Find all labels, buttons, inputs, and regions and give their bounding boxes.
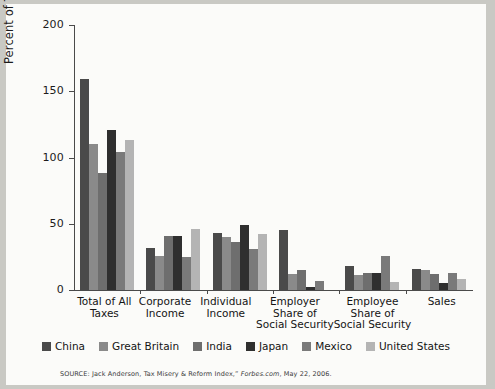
screenshot-page: Percent of Tax Burden 200150100500 Total…	[0, 0, 495, 389]
y-axis-label-container: Percent of Tax Burden	[2, 0, 20, 64]
bar	[173, 236, 182, 290]
x-axis-category-line: Sales	[411, 296, 472, 308]
bar-group	[339, 25, 405, 290]
bar	[155, 256, 164, 290]
y-tick-label: 200	[20, 18, 64, 31]
x-axis-category-label: EmployeeShare ofSocial Security	[334, 296, 412, 338]
bar	[390, 282, 399, 290]
bar	[288, 274, 297, 290]
bar	[116, 152, 125, 290]
legend-label: India	[206, 340, 232, 352]
bar	[279, 230, 288, 290]
x-axis-category-line: Total of All	[74, 296, 135, 308]
x-axis-category-line: Employee	[334, 296, 412, 308]
bar-group	[207, 25, 273, 290]
bar	[412, 269, 421, 290]
legend-swatch	[246, 342, 255, 351]
bar	[213, 233, 222, 290]
x-tick-mark	[339, 290, 340, 294]
x-axis-category-line: Employer	[256, 296, 334, 308]
x-axis-category-line: Individual	[195, 296, 256, 308]
bar	[249, 249, 258, 290]
source-suffix: , May 22, 2006.	[279, 370, 331, 378]
x-axis-category-line: Social Security	[256, 319, 334, 331]
legend-label: Japan	[259, 340, 288, 352]
bar	[125, 140, 134, 290]
x-axis-category-line: Taxes	[74, 308, 135, 320]
x-axis-category-line: Social Security	[334, 319, 412, 331]
x-axis-category-label: Total of AllTaxes	[74, 296, 135, 338]
x-axis-category-line: Income	[135, 308, 196, 320]
x-axis-category-line: Corporate	[135, 296, 196, 308]
x-axis-category-label: Sales	[411, 296, 472, 338]
bar	[80, 79, 89, 290]
bar-group	[140, 25, 206, 290]
legend-item: India	[193, 340, 232, 352]
y-tick-label: 50	[20, 217, 64, 230]
chart-card: Percent of Tax Burden 200150100500 Total…	[6, 4, 486, 385]
y-tick-label: 100	[20, 151, 64, 164]
bar	[222, 237, 231, 290]
y-tick-label: 0	[20, 283, 64, 296]
x-tick-mark	[207, 290, 208, 294]
bar	[182, 257, 191, 290]
legend-item: Japan	[246, 340, 288, 352]
legend-swatch	[193, 342, 202, 351]
bar	[231, 242, 240, 290]
bar-group	[406, 25, 472, 290]
bar-group	[273, 25, 339, 290]
x-axis-category-line: Income	[195, 308, 256, 320]
legend-swatch	[42, 342, 51, 351]
bar	[306, 287, 315, 290]
legend-item: United States	[366, 340, 450, 352]
bar	[421, 270, 430, 290]
x-axis-labels: Total of AllTaxesCorporateIncomeIndividu…	[74, 296, 472, 338]
bar	[448, 273, 457, 290]
bar	[363, 273, 372, 290]
legend-swatch	[302, 342, 311, 351]
legend-label: Mexico	[315, 340, 352, 352]
x-axis-category-label: CorporateIncome	[135, 296, 196, 338]
y-axis-label: Percent of Tax Burden	[2, 0, 16, 64]
bar	[381, 256, 390, 290]
legend-swatch	[99, 342, 108, 351]
bar	[107, 130, 116, 290]
legend-item: Mexico	[302, 340, 352, 352]
bar	[191, 229, 200, 290]
bar	[146, 248, 155, 290]
legend-label: United States	[379, 340, 450, 352]
y-tick-mark	[69, 290, 74, 291]
bar-groups	[74, 25, 472, 290]
bar	[439, 283, 448, 290]
bar	[297, 270, 306, 290]
source-note: SOURCE: Jack Anderson, Tax Misery & Refo…	[60, 370, 480, 378]
bar	[315, 281, 324, 290]
legend-label: Great Britain	[112, 340, 179, 352]
source-prefix: SOURCE: Jack Anderson, Tax Misery & Refo…	[60, 370, 241, 378]
x-axis-category-label: EmployerShare ofSocial Security	[256, 296, 334, 338]
bar	[98, 173, 107, 290]
bar	[430, 274, 439, 290]
bar-group	[74, 25, 140, 290]
x-tick-mark	[406, 290, 407, 294]
legend-swatch	[366, 342, 375, 351]
chart-legend: ChinaGreat BritainIndiaJapanMexicoUnited…	[6, 340, 486, 352]
bar	[258, 234, 267, 290]
bar	[457, 279, 466, 290]
bar	[164, 236, 173, 290]
x-tick-mark	[273, 290, 274, 294]
legend-item: Great Britain	[99, 340, 179, 352]
y-tick-label: 150	[20, 84, 64, 97]
x-axis-category-label: IndividualIncome	[195, 296, 256, 338]
bar	[89, 144, 98, 290]
source-publication: Forbes.com	[241, 370, 280, 378]
x-tick-mark	[140, 290, 141, 294]
bar	[240, 225, 249, 290]
legend-label: China	[55, 340, 85, 352]
legend-item: China	[42, 340, 85, 352]
bar	[372, 273, 381, 290]
bar	[345, 266, 354, 290]
bar	[354, 275, 363, 290]
